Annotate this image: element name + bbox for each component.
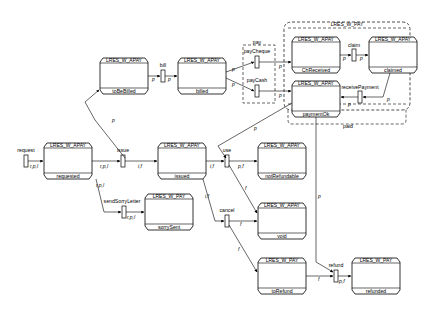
place-header: LRES_W_APAY	[375, 36, 412, 42]
place-ChReceived[interactable]: LRES_W_APAY ChReceived	[292, 36, 340, 73]
arc-label: f	[238, 246, 240, 252]
arc-label: r,p,l	[30, 163, 39, 169]
place-header: LRES_W_PAY	[266, 257, 299, 263]
place-label: toRefund	[271, 288, 292, 294]
place-label: notRefundable	[265, 173, 299, 179]
transition-label: bill	[160, 62, 166, 68]
arc-label: r,p,l	[127, 214, 136, 220]
arc-label: i,f	[205, 193, 210, 199]
arc-label: p	[231, 81, 235, 87]
place-billed[interactable]: LRES_W_APAY billed	[178, 57, 226, 94]
place-refunded[interactable]: LRES_W_PAY refunded	[352, 257, 400, 294]
place-label: toBeBilled	[112, 88, 135, 94]
arc-label: f	[245, 185, 247, 191]
arc-label: r,p,l	[100, 163, 109, 169]
place-label: requested	[56, 173, 79, 179]
transition-cancel[interactable]: cancel	[220, 207, 235, 227]
arc-label: p	[167, 76, 171, 82]
transition-payCash[interactable]: payCash	[247, 77, 268, 97]
group-pay-label: pay	[253, 39, 262, 45]
arc-label: p	[278, 92, 282, 98]
arc-label: p	[111, 117, 115, 123]
transition-label: request	[17, 147, 35, 153]
transition-label: payCheque	[244, 48, 271, 54]
arc-label: p	[151, 76, 155, 82]
place-header: LRES_W_APAY	[50, 142, 87, 148]
place-header: LRES_W_APAY	[164, 142, 201, 148]
transition-use[interactable]: use	[223, 147, 231, 167]
place-label: ChReceived	[302, 67, 330, 73]
place-header: LRES_W_APAY	[264, 202, 301, 208]
place-header: LRES_W_APAY	[298, 36, 335, 42]
place-requested[interactable]: LRES_W_APAY requested	[44, 142, 92, 179]
place-toBeBilled[interactable]: LRES_W_APAY toBeBilled	[100, 57, 148, 94]
place-label: sorrySent	[158, 224, 181, 230]
group-lres-w-pay-label: LRES_W_PAY	[331, 21, 364, 27]
place-label: void	[277, 233, 287, 239]
transition-label: cancel	[220, 207, 235, 213]
transition-payCheque[interactable]: payCheque	[244, 48, 271, 68]
arc-label: p	[347, 101, 351, 107]
transition-label: sendSorryLetter	[104, 198, 141, 204]
transition-label: refund	[329, 262, 344, 268]
place-label: refunded	[366, 288, 387, 294]
place-header: LRES_W_APAY	[184, 57, 221, 63]
arc-label: p	[231, 66, 235, 72]
place-label: billed	[196, 88, 208, 94]
transition-label: use	[223, 147, 231, 153]
arc-label: i,f	[210, 163, 215, 169]
transition-label: payCash	[247, 77, 268, 83]
place-notRefundable[interactable]: LRES_W_APAY notRefundable	[258, 142, 306, 179]
arc-label: p	[386, 96, 390, 102]
transition-claim[interactable]: claim	[348, 42, 360, 61]
place-label: claimed	[384, 67, 402, 73]
place-header: LRES_W_APAY	[264, 142, 301, 148]
place-toRefund[interactable]: LRES_W_PAY toRefund	[258, 257, 306, 294]
place-label: issued	[175, 173, 190, 179]
place-header: LRES_W_PAY	[153, 193, 186, 199]
arc-label: r,p,l	[96, 182, 105, 188]
place-header: LRES_W_PAY	[360, 257, 393, 263]
arc-label: p	[359, 55, 363, 61]
transition-label: receivePayment	[341, 84, 379, 90]
arc-label: p	[278, 63, 282, 69]
arc-label: p	[342, 55, 346, 61]
arc-label: f	[318, 276, 320, 282]
arc-label: f	[240, 221, 242, 227]
arc-label: p,f	[237, 163, 244, 169]
transition-label: claim	[348, 42, 360, 48]
arc-label: p	[253, 125, 257, 131]
place-paymentOk[interactable]: LRES_W_APAY paymentOk	[292, 80, 340, 117]
place-label: paymentOk	[303, 111, 330, 117]
place-header: LRES_W_APAY	[106, 57, 143, 63]
arc-label: p	[317, 193, 321, 199]
petri-net-diagram: LRES_W_PAY paid pay LRES_W_APAY toBeBill…	[0, 0, 436, 311]
place-sorrySent[interactable]: LRES_W_PAY sorrySent	[145, 193, 193, 230]
place-issued[interactable]: LRES_W_APAY issued	[158, 142, 206, 179]
arc-label: p,f	[338, 278, 345, 284]
place-header: LRES_W_APAY	[298, 80, 335, 86]
place-void[interactable]: LRES_W_APAY void	[258, 202, 306, 239]
transition-sendSorryLetter[interactable]: sendSorryLetter	[104, 198, 141, 218]
transition-bill[interactable]: bill	[160, 62, 166, 82]
place-claimed[interactable]: LRES_W_APAY claimed	[369, 36, 417, 73]
arc-label: i,f	[138, 163, 143, 169]
